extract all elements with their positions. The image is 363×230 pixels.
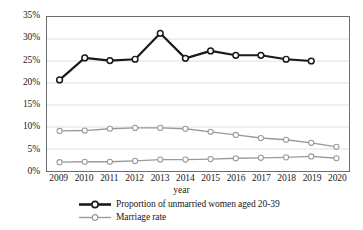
data-point-marker [308, 58, 314, 64]
chart-legend: Proportion of unmarried women aged 20-39… [0, 198, 363, 224]
y-axis-tick-label: 10% [23, 123, 40, 133]
y-axis-tick-label: 15% [23, 100, 40, 110]
data-point-marker [233, 132, 238, 137]
legend-label: Proportion of unmarried women aged 20-39 [116, 200, 280, 210]
plot-area [46, 16, 350, 172]
x-axis-tick-label: 2015 [201, 174, 220, 184]
legend-marker-icon [78, 212, 112, 223]
data-point-marker [284, 137, 289, 142]
data-point-marker [208, 129, 213, 134]
y-axis: 0%5%10%15%20%25%30%35% [0, 16, 43, 172]
x-axis-tick-label: 2010 [75, 174, 94, 184]
data-point-marker [82, 55, 88, 61]
data-point-marker [183, 56, 189, 62]
data-point-marker [107, 126, 112, 131]
data-point-marker [107, 159, 112, 164]
data-point-marker [183, 126, 188, 131]
series-line [57, 154, 339, 165]
data-point-marker [158, 125, 163, 130]
data-point-marker [334, 156, 339, 161]
x-axis-title: year [0, 186, 363, 196]
data-point-marker [208, 157, 213, 162]
x-axis-tick-label: 2009 [49, 174, 68, 184]
y-axis-tick-label: 25% [23, 56, 40, 66]
legend-label: Marriage rate [116, 213, 166, 223]
y-axis-tick-label: 30% [23, 34, 40, 44]
data-point-marker [133, 158, 138, 163]
data-point-marker [183, 157, 188, 162]
legend-item[interactable]: Marriage rate [0, 211, 363, 224]
legend-marker-icon [78, 199, 112, 210]
data-point-marker [309, 140, 314, 145]
data-point-marker [208, 48, 214, 54]
y-axis-tick-label: 0% [28, 167, 40, 177]
x-axis-tick-label: 2017 [252, 174, 271, 184]
data-point-marker [283, 56, 289, 62]
legend-item[interactable]: Proportion of unmarried women aged 20-39 [0, 198, 363, 211]
x-axis-tick-label: 2013 [151, 174, 170, 184]
data-point-marker [57, 160, 62, 165]
data-point-marker [258, 155, 263, 160]
data-point-marker [133, 125, 138, 130]
y-axis-tick-label: 20% [23, 78, 40, 88]
data-point-marker [334, 144, 339, 149]
x-axis-tick-label: 2018 [277, 174, 296, 184]
x-axis-tick-label: 2019 [303, 174, 322, 184]
y-axis-tick-label: 35% [23, 11, 40, 21]
x-axis-tick-label: 2016 [227, 174, 246, 184]
series-layer [47, 17, 349, 171]
data-point-marker [157, 30, 163, 36]
x-axis-tick-label: 2012 [125, 174, 144, 184]
series-line [57, 125, 339, 149]
data-point-marker [258, 135, 263, 140]
data-point-marker [57, 77, 63, 83]
data-point-marker [82, 128, 87, 133]
data-point-marker [57, 128, 62, 133]
data-point-marker [107, 58, 113, 64]
x-axis-tick-label: 2020 [328, 174, 347, 184]
line-chart: 0%5%10%15%20%25%30%35% 20092010201120122… [0, 0, 363, 230]
data-point-marker [233, 156, 238, 161]
x-axis-tick-label: 2014 [176, 174, 195, 184]
data-point-marker [258, 52, 264, 58]
data-point-marker [284, 155, 289, 160]
data-point-marker [132, 56, 138, 62]
data-point-marker [233, 52, 239, 58]
y-axis-tick-label: 5% [28, 145, 40, 155]
x-axis-tick-label: 2011 [100, 174, 118, 184]
data-point-marker [82, 159, 87, 164]
data-point-marker [309, 154, 314, 159]
data-point-marker [158, 157, 163, 162]
series-line [57, 30, 314, 82]
